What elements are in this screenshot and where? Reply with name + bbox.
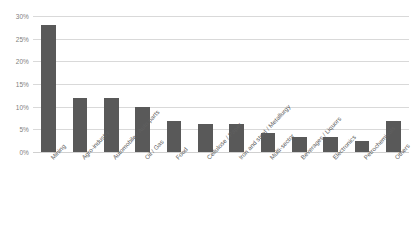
bars-group (33, 16, 409, 152)
bar-chart: 0%5%10%15%20%25%30% MiningAgro-industryA… (0, 0, 413, 231)
bar (167, 121, 181, 152)
bar (73, 98, 87, 152)
bar (198, 124, 212, 152)
plot-area (33, 16, 409, 152)
y-axis-tick-label: 10% (0, 103, 29, 110)
x-axis-labels: MiningAgro-industryAutomobile / Auto par… (33, 152, 409, 231)
bar (104, 98, 118, 152)
y-axis-tick-label: 30% (0, 13, 29, 20)
y-axis-tick-label: 25% (0, 35, 29, 42)
y-axis-tick-label: 15% (0, 81, 29, 88)
y-axis-tick-label: 5% (0, 126, 29, 133)
y-axis-tick-label: 20% (0, 58, 29, 65)
y-axis-tick-label: 0% (0, 149, 29, 156)
bar (41, 25, 55, 152)
